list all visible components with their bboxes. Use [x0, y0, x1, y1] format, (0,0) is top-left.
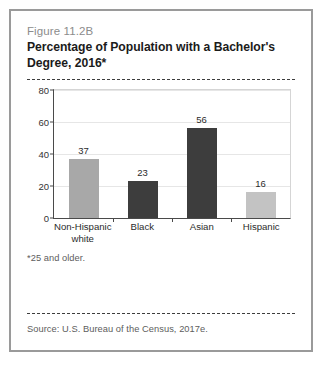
figure-title: Percentage of Population with a Bachelor… [27, 40, 295, 71]
x-axis-labels: Non-Hispanic white Black Asian Hispanic [53, 219, 291, 241]
y-axis-label-80: 80 [38, 85, 49, 96]
bar-slot-non-hispanic-white: 37 [54, 90, 113, 218]
x-axis-label-black: Black [113, 221, 173, 233]
plot-area: 80 60 40 20 0 37 23 [53, 89, 291, 219]
bar-non-hispanic-white[interactable]: 37 [69, 159, 99, 218]
bar-slot-asian: 56 [172, 90, 231, 218]
bar-black[interactable]: 23 [128, 181, 158, 218]
y-axis-label-60: 60 [38, 117, 49, 128]
figure-number: Figure 11.2B [27, 24, 295, 39]
x-axis-label-asian: Asian [172, 221, 232, 233]
bar-value-black: 23 [137, 167, 148, 178]
figure-card: Figure 11.2B Percentage of Population wi… [9, 9, 313, 352]
y-axis-label-0: 0 [44, 213, 49, 224]
source-block: Source: U.S. Bureau of the Census, 2017e… [27, 313, 295, 336]
bar-value-hispanic: 16 [255, 178, 266, 189]
bar-value-non-hispanic-white: 37 [78, 145, 89, 156]
bar-value-asian: 56 [196, 114, 207, 125]
bar-asian[interactable]: 56 [187, 128, 217, 218]
dashed-divider-bottom [27, 313, 295, 314]
y-axis-label-40: 40 [38, 149, 49, 160]
bar-slot-black: 23 [113, 90, 172, 218]
bars-layer: 37 23 56 16 [54, 90, 290, 218]
y-axis-label-20: 20 [38, 181, 49, 192]
x-axis-label-non-hispanic-white: Non-Hispanic white [53, 221, 113, 244]
bar-hispanic[interactable]: 16 [246, 192, 276, 218]
bar-chart: 80 60 40 20 0 37 23 [27, 89, 295, 241]
figure-source: Source: U.S. Bureau of the Census, 2017e… [27, 323, 295, 336]
figure-card-inner: Figure 11.2B Percentage of Population wi… [11, 11, 311, 350]
figure-footnote: *25 and older. [27, 252, 295, 265]
x-axis-label-hispanic: Hispanic [232, 221, 292, 233]
dashed-divider-top [27, 79, 295, 80]
bar-slot-hispanic: 16 [231, 90, 290, 218]
